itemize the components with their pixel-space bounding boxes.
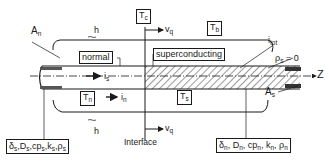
temp-super-box: Ts	[177, 90, 192, 105]
region-superconducting-label: superconducting	[153, 48, 225, 61]
temp-normal-box: Tn	[80, 91, 95, 106]
label-normal-area: An	[31, 26, 41, 39]
normal-metal-properties-box: δn, Dn, cpn, kn, ρn	[216, 138, 291, 153]
superconductor-properties-box: δs,Ds,cps,ks,ρs	[6, 139, 69, 154]
interface-label: Interface	[124, 137, 157, 147]
axis-z-label: Z	[317, 69, 324, 79]
label-h-bottom: h	[94, 126, 99, 136]
label-is: is	[104, 71, 109, 84]
temp-critical-box: Tc	[136, 9, 151, 24]
region-normal-label: normal	[79, 51, 113, 64]
label-in: in	[121, 92, 127, 105]
label-itot: itot	[268, 35, 277, 48]
conductor-wire	[40, 66, 302, 89]
velocity-label-top: vq	[165, 24, 173, 37]
temp-bath-box: Tb	[207, 21, 222, 36]
label-super-area: As	[265, 87, 275, 100]
velocity-label-bottom: vq	[165, 123, 173, 136]
label-h-top: h	[94, 25, 99, 35]
label-rho-s-zero: ρs = 0	[275, 53, 299, 66]
